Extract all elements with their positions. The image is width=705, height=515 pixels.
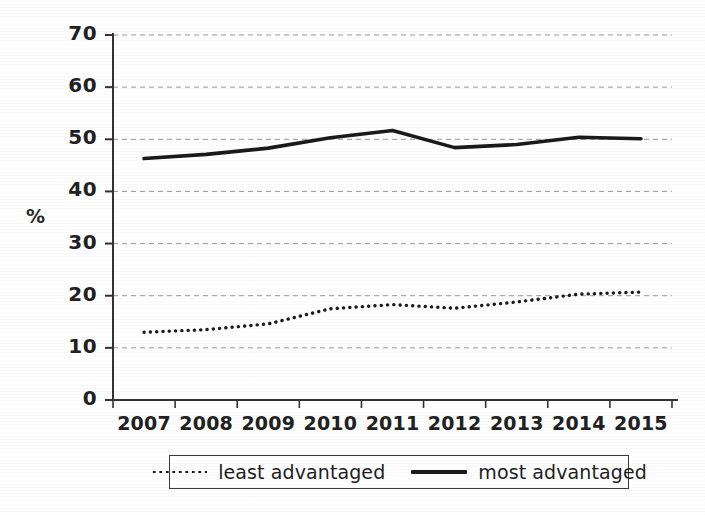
gridlines — [113, 35, 672, 348]
series-line-most-advantaged — [144, 130, 641, 158]
axis-lines — [113, 33, 678, 400]
line-chart-figure: % 010203040506070 2007200820092010201120… — [0, 0, 705, 515]
legend-label-most-advantaged: most advantaged — [478, 461, 647, 483]
legend-entry-least-advantaged: least advantaged — [151, 461, 385, 483]
legend-entry-most-advantaged: most advantaged — [411, 461, 647, 483]
dotted-line-swatch-icon — [151, 470, 207, 474]
chart-legend: least advantaged most advantaged — [169, 455, 629, 489]
axis-ticks — [105, 35, 672, 408]
solid-line-swatch-icon — [411, 470, 467, 474]
plot-area — [0, 0, 705, 515]
series-line-least-advantaged — [144, 292, 641, 332]
legend-label-least-advantaged: least advantaged — [218, 461, 385, 483]
data-series-layer — [144, 130, 641, 332]
